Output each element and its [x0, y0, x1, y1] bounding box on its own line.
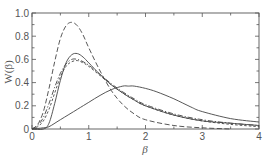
y-tick-label: 0.8	[15, 31, 29, 42]
axis-ticks	[32, 13, 259, 129]
chart: 01234 00.20.40.60.81.0 β W(β)	[0, 0, 268, 159]
y-tick-label: 0.4	[15, 77, 29, 88]
x-tick-label: 0	[29, 131, 35, 142]
curve-shortdash	[32, 61, 259, 129]
x-tick-label: 4	[256, 131, 262, 142]
data-curves	[32, 22, 259, 129]
plot-frame	[32, 13, 259, 129]
y-tick-label: 0.2	[15, 100, 29, 111]
x-axis-title: β	[141, 143, 148, 155]
x-tick-label: 3	[199, 131, 205, 142]
curve-dashdot	[32, 59, 259, 129]
x-tick-label: 2	[143, 131, 149, 142]
curve-solid	[32, 53, 259, 129]
y-tick-labels: 00.20.40.60.81.0	[15, 8, 29, 135]
x-tick-label: 1	[86, 131, 92, 142]
y-tick-label: 0.6	[15, 54, 29, 65]
x-tick-labels: 01234	[29, 131, 262, 142]
axes-box	[32, 13, 259, 129]
y-tick-label: 1.0	[15, 8, 29, 19]
y-axis-title: W(β)	[2, 60, 15, 84]
y-tick-label: 0	[23, 124, 29, 135]
